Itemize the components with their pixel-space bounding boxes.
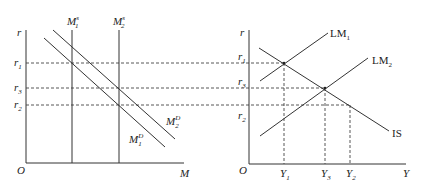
right-r1-label: r1 — [238, 50, 246, 65]
is-label: IS — [392, 127, 402, 139]
left-r1-label: r1 — [14, 56, 22, 71]
money-demand-1-line — [44, 38, 165, 147]
money-demand-1-label: MD1 — [128, 132, 143, 148]
right-y-axis-label: r — [240, 26, 245, 38]
money-demand-2-line — [53, 30, 175, 139]
right-panel-is-lm: r r1 r3 r2 Y1 Y3 Y2 O Y LM1 LM2 IS — [238, 26, 411, 182]
money-demand-2-label: MD2 — [165, 114, 180, 130]
left-origin-label: O — [17, 164, 25, 176]
money-supply-2-label: Ms2 — [112, 14, 125, 30]
equilibrium-point-1 — [283, 62, 286, 65]
lm1-curve — [260, 33, 328, 81]
left-r3-label: r3 — [14, 81, 22, 96]
right-x-axis-label: Y — [403, 167, 411, 179]
left-r2-label: r2 — [14, 98, 22, 113]
left-panel-money-market: r r1 r3 r2 O M Ms1 Ms2 MD1 MD2 — [14, 14, 350, 179]
is-curve — [259, 48, 389, 131]
right-r2-label: r2 — [238, 109, 246, 124]
equilibrium-point-3 — [324, 87, 327, 90]
left-y-axis-label: r — [17, 26, 22, 38]
y1-label: Y1 — [280, 167, 290, 182]
right-r3-label: r3 — [238, 75, 246, 90]
lm2-label: LM2 — [372, 54, 393, 69]
left-x-axis-label: M — [179, 167, 190, 179]
lm1-label: LM1 — [330, 27, 351, 42]
right-origin-label: O — [239, 164, 247, 176]
y2-label: Y2 — [346, 167, 356, 182]
money-supply-1-label: Ms1 — [66, 14, 79, 30]
y3-label: Y3 — [321, 167, 331, 182]
is-lm-money-market-diagram: r r1 r3 r2 O M Ms1 Ms2 MD1 MD2 r r1 — [0, 0, 421, 191]
